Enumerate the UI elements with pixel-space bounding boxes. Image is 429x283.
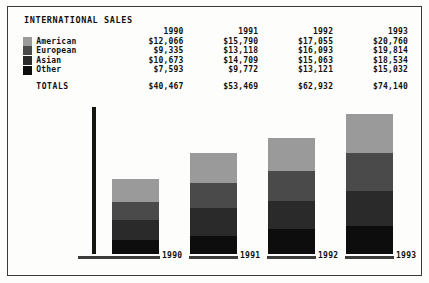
row-label-european: European (36, 46, 109, 56)
cell-american-1993: $20,760 (333, 37, 408, 47)
total-1992: $62,932 (258, 82, 333, 92)
table-spacer-cell (22, 75, 408, 82)
cell-european-1991: $13,118 (184, 46, 259, 56)
cell-other-1992: $13,121 (258, 65, 333, 75)
cell-american-1991: $15,790 (184, 37, 259, 47)
cell-other-1991: $9,772 (184, 65, 259, 75)
legend-swatch-european-cell (22, 46, 36, 56)
bar-segment-european-1990 (112, 202, 159, 220)
table-row: American $12,066 $15,790 $17,055 $20,760 (22, 37, 408, 47)
bar-1993 (346, 114, 393, 254)
legend-swatch-asian-cell (22, 56, 36, 66)
bar-segment-asian-1992 (268, 201, 315, 229)
page-title: INTERNATIONAL SALES (24, 15, 408, 25)
x-axis-label-1990: 1990 (162, 251, 182, 260)
bar-segment-other-1992 (268, 229, 315, 254)
column-header-1990: 1990 (109, 27, 184, 37)
cell-american-1992: $17,055 (258, 37, 333, 47)
cell-other-1990: $7,593 (109, 65, 184, 75)
legend-swatch-american (23, 37, 32, 46)
bar-segment-asian-1991 (190, 208, 237, 236)
bar-segment-asian-1993 (346, 191, 393, 226)
x-axis-label-1991: 1991 (240, 251, 260, 260)
x-axis-label-1993: 1993 (396, 251, 416, 260)
x-axis: 1990199119921993 (78, 252, 408, 266)
chart-screenshot: INTERNATIONAL SALES 1990 1991 1992 1993 (0, 0, 429, 283)
cell-other-1993: $15,032 (333, 65, 408, 75)
legend-swatch-other-cell (22, 65, 36, 75)
x-axis-rule (345, 256, 394, 259)
bar-segment-other-1993 (346, 226, 393, 254)
column-header-1993: 1993 (333, 27, 408, 37)
legend-swatch-other (23, 66, 32, 75)
cell-asian-1992: $15,063 (258, 56, 333, 66)
total-1990: $40,467 (109, 82, 184, 92)
table-spacer-row (22, 75, 408, 82)
x-axis-label-1992: 1992 (318, 251, 338, 260)
column-header-1992: 1992 (258, 27, 333, 37)
bar-1990 (112, 179, 159, 254)
bar-segment-american-1993 (346, 114, 393, 153)
sales-table: 1990 1991 1992 1993 American $12,066 $15… (22, 27, 408, 92)
sales-report-block: INTERNATIONAL SALES 1990 1991 1992 1993 (22, 15, 408, 92)
totals-swatch-cell (22, 82, 36, 92)
stacked-bar-chart: 1990199119921993 (22, 107, 408, 267)
x-axis-rule (78, 256, 160, 259)
legend-swatch-european (23, 46, 32, 55)
table-row: Asian $10,673 $14,709 $15,063 $18,534 (22, 56, 408, 66)
cell-european-1992: $16,093 (258, 46, 333, 56)
chart-plot-area (22, 107, 408, 254)
bar-segment-american-1991 (190, 153, 237, 183)
legend-swatch-asian (23, 56, 32, 65)
row-label-american: American (36, 37, 109, 47)
row-label-other: Other (36, 65, 109, 75)
bar-segment-american-1990 (112, 179, 159, 202)
bar-segment-european-1991 (190, 183, 237, 208)
cell-asian-1990: $10,673 (109, 56, 184, 66)
bar-1992 (268, 138, 315, 254)
x-axis-rule (189, 256, 238, 259)
cell-european-1993: $19,814 (333, 46, 408, 56)
cell-asian-1991: $14,709 (184, 56, 259, 66)
totals-row: TOTALS $40,467 $53,469 $62,932 $74,140 (22, 82, 408, 92)
bar-1991 (190, 153, 237, 254)
table-row: Other $7,593 $9,772 $13,121 $15,032 (22, 65, 408, 75)
bar-segment-european-1992 (268, 171, 315, 201)
column-header-1991: 1991 (184, 27, 259, 37)
report-frame: INTERNATIONAL SALES 1990 1991 1992 1993 (7, 6, 422, 276)
x-axis-rule (267, 256, 316, 259)
table-header-row: 1990 1991 1992 1993 (22, 27, 408, 37)
cell-american-1990: $12,066 (109, 37, 184, 47)
legend-swatch-american-cell (22, 37, 36, 47)
cell-european-1990: $9,335 (109, 46, 184, 56)
table-row: European $9,335 $13,118 $16,093 $19,814 (22, 46, 408, 56)
category-header (36, 27, 109, 37)
row-label-asian: Asian (36, 56, 109, 66)
bar-segment-asian-1990 (112, 220, 159, 240)
bar-segment-european-1993 (346, 153, 393, 190)
bar-segment-american-1992 (268, 138, 315, 170)
total-1993: $74,140 (333, 82, 408, 92)
legend-swatch-header (22, 27, 36, 37)
cell-asian-1993: $18,534 (333, 56, 408, 66)
total-1991: $53,469 (184, 82, 259, 92)
totals-label: TOTALS (36, 82, 109, 92)
